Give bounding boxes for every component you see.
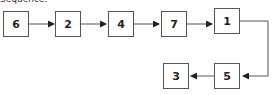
node-4: 4 [108,11,134,37]
node-3: 3 [163,63,189,89]
node-1: 1 [214,8,240,34]
node-2: 2 [55,11,81,37]
node-7: 7 [161,11,187,37]
node-6: 6 [3,11,29,37]
arrow-1-to-5 [240,21,268,76]
node-5: 5 [214,63,240,89]
